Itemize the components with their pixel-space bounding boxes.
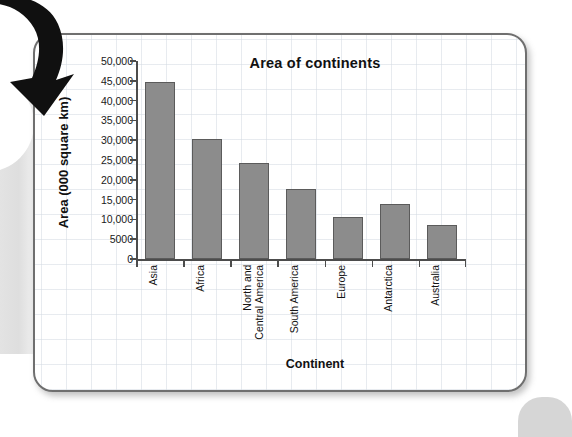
background-bottom-strip bbox=[0, 401, 562, 419]
x-tick-label: Australia bbox=[430, 265, 442, 306]
x-axis-tick-labels: AsiaAfricaNorth and Central AmericaSouth… bbox=[136, 265, 476, 357]
y-tick-label: 0 bbox=[73, 253, 133, 265]
bar bbox=[286, 189, 316, 259]
bar bbox=[380, 204, 410, 259]
x-tick-label: Africa bbox=[195, 265, 207, 292]
y-tick-label: 20,000 bbox=[73, 174, 133, 186]
y-tick-label: 25,000 bbox=[73, 154, 133, 166]
y-axis-line bbox=[136, 61, 138, 259]
x-axis-line bbox=[136, 259, 466, 261]
curved-arrow-icon bbox=[0, 0, 92, 120]
x-axis-title: Continent bbox=[185, 357, 445, 371]
x-tick-label: South America bbox=[289, 265, 301, 333]
bar bbox=[145, 82, 175, 259]
y-tick-mark bbox=[130, 120, 136, 122]
x-tick-label: Asia bbox=[148, 265, 160, 285]
y-tick-mark bbox=[130, 179, 136, 181]
y-tick-mark bbox=[130, 60, 136, 62]
y-tick-mark bbox=[130, 159, 136, 161]
y-tick-mark bbox=[130, 219, 136, 221]
chart-card: Area of continents Area (000 square km) … bbox=[33, 33, 527, 392]
bar-chart: Area of continents Area (000 square km) … bbox=[35, 35, 525, 390]
bar bbox=[333, 217, 363, 259]
background-corner-blob bbox=[518, 397, 572, 437]
bar bbox=[239, 163, 269, 259]
x-tick-label: Europe bbox=[336, 265, 348, 299]
y-tick-label: 30,000 bbox=[73, 134, 133, 146]
y-tick-mark bbox=[130, 100, 136, 102]
plot-area bbox=[136, 61, 466, 259]
bar bbox=[192, 139, 222, 259]
bar bbox=[427, 225, 457, 259]
y-tick-label: 10,000 bbox=[73, 213, 133, 225]
y-tick-label: 15,000 bbox=[73, 194, 133, 206]
y-tick-mark bbox=[130, 238, 136, 240]
y-tick-mark bbox=[130, 199, 136, 201]
y-tick-label: 5000 bbox=[73, 233, 133, 245]
y-tick-mark bbox=[130, 139, 136, 141]
x-tick-label: Antarctica bbox=[383, 265, 395, 312]
y-tick-mark bbox=[130, 80, 136, 82]
x-tick-label: North and Central America bbox=[242, 265, 265, 340]
